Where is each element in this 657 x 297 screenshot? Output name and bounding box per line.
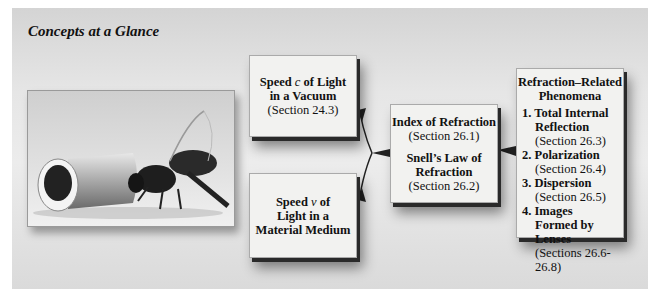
list-item: 1. Total Internal Reflection(Section 26.… [522,106,618,148]
list-item: 4. Images Formed by Lenses(Sections 26.6… [522,204,618,274]
box-speed-medium: Speed v of Light in a Material Medium [249,173,357,258]
arrow-head-icon [372,149,390,157]
box-speed-vacuum: Speed c of Light in a Vacuum (Section 24… [249,55,357,137]
box-phenomena: Refraction–Related Phenomena 1. Total In… [516,68,624,238]
arrow-head-icon [358,108,366,122]
phenomena-heading: Refraction–Related Phenomena [518,75,622,103]
list-item: 2. Polarization(Section 26.4) [522,148,618,176]
box-index-snell: Index of Refraction (Section 26.1) Snell… [390,104,498,203]
arrow-head-icon [498,146,516,156]
phenomena-list: 1. Total Internal Reflection(Section 26.… [522,106,618,274]
arrow-head-icon [358,188,366,202]
list-item: 3. Dispersion(Section 26.5) [522,176,618,204]
